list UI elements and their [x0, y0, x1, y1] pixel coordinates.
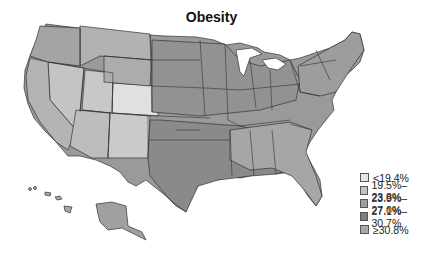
alaska-shape — [96, 202, 146, 240]
southeast-region — [230, 122, 322, 206]
legend-swatch — [360, 199, 368, 208]
legend-label: ≥30.8% — [373, 224, 409, 236]
northeast-region — [298, 32, 364, 96]
legend-item: 27.1%–30.7% — [360, 210, 423, 223]
legend-swatch — [360, 173, 369, 182]
midwest-region — [152, 40, 300, 116]
hawaii-shape — [29, 187, 73, 214]
legend-swatch — [360, 212, 368, 221]
wyoming-region — [104, 56, 152, 86]
legend-swatch — [360, 186, 368, 195]
legend-swatch — [360, 225, 369, 234]
map-legend: <19.4% 19.5%–23.8% 23.9%–27.0% 27.1%–30.… — [360, 171, 423, 236]
new-mexico-region — [108, 113, 150, 158]
